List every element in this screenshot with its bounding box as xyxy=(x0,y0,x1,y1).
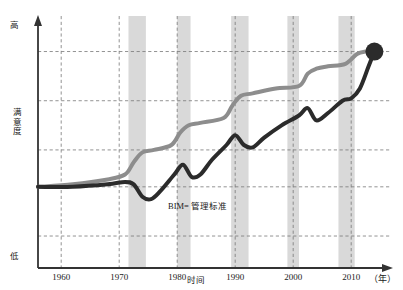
x-axis-unit-label: （年） xyxy=(369,272,403,285)
shaded-band-1 xyxy=(177,16,190,268)
y-axis-title: 满意度 xyxy=(9,108,21,137)
series-end-marker-1 xyxy=(365,43,383,61)
chart-annotation-bim-label: BIM= 管理标准 xyxy=(168,199,227,211)
x-tick-label-1960: 1960 xyxy=(41,272,81,282)
x-axis-arrow-icon xyxy=(382,264,393,272)
chart-plot-area xyxy=(0,0,403,290)
data-series-group xyxy=(38,51,374,199)
series-line-1 xyxy=(38,52,374,200)
end-point-marker-group xyxy=(365,43,383,61)
shaded-band-4 xyxy=(338,16,354,268)
y-axis-low-label: 低 xyxy=(10,249,19,261)
shaded-band-0 xyxy=(128,16,145,268)
x-tick-label-2000: 2000 xyxy=(273,272,313,282)
y-axis-high-label: 高 xyxy=(10,18,19,30)
x-tick-label-1980: 1980 xyxy=(157,272,197,282)
y-axis-arrow-icon xyxy=(34,15,42,26)
x-tick-label-1990: 1990 xyxy=(215,272,255,282)
vertical-gridlines-group xyxy=(61,16,351,268)
x-tick-label-1970: 1970 xyxy=(99,272,139,282)
satisfaction-timeline-chart: 高 低 满意度 时间 BIM= 管理标准 1960197019801990200… xyxy=(0,0,403,290)
x-tick-label-2010: 2010 xyxy=(331,272,371,282)
